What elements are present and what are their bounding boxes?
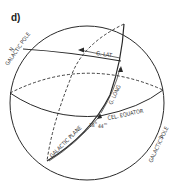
g-lat-arrow-icon xyxy=(78,48,84,53)
celestial-sphere-figure: d) N GALACTIC POLE G. LAT G. LONG CEL. E… xyxy=(0,0,187,184)
panel-label: d) xyxy=(11,12,20,23)
ra-label-minutes: 44 xyxy=(98,123,104,129)
ra-label-hours: 18 xyxy=(89,122,95,128)
ra-label-minutes-unit: m xyxy=(104,122,107,126)
sphere-diagram: N GALACTIC POLE G. LAT G. LONG CEL. EQUA… xyxy=(0,0,187,184)
ra-label-hours-unit: h xyxy=(95,121,97,125)
celestial-equator-back xyxy=(10,73,163,93)
g-long-arrow-icon xyxy=(118,66,123,72)
